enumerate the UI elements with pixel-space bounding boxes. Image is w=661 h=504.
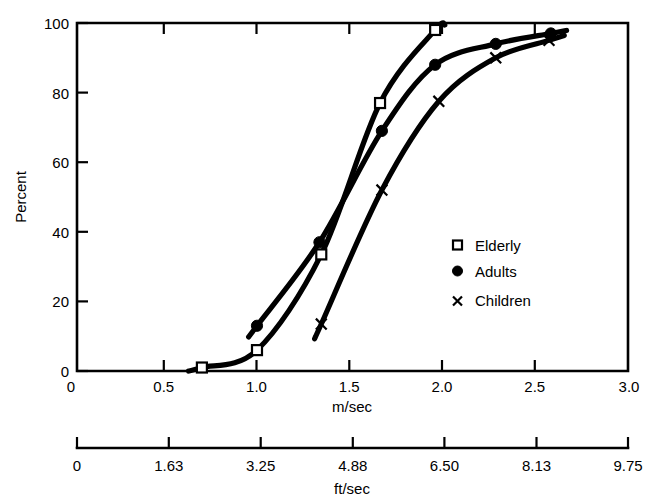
x-axis-tick-labels: 0 0.5 1.0 1.5 2.0 2.5 3.0 xyxy=(67,378,640,395)
secondary-x-tick-label: 9.75 xyxy=(613,457,642,474)
secondary-x-axis xyxy=(77,437,628,448)
x-tick-label: 1.0 xyxy=(246,378,267,395)
x-tick-label: 3.0 xyxy=(619,378,640,395)
plot-border xyxy=(77,23,628,371)
plot-frame xyxy=(77,23,628,371)
y-tick-label: 80 xyxy=(52,85,69,102)
filled-circle-marker xyxy=(430,59,441,70)
filled-circle-icon xyxy=(453,266,463,276)
secondary-x-tick-label: 0 xyxy=(73,457,81,474)
legend-label: Elderly xyxy=(475,237,521,254)
open-square-marker xyxy=(316,249,326,259)
secondary-x-tick-label: 1.63 xyxy=(154,457,183,474)
y-axis-ticks xyxy=(77,23,88,371)
secondary-x-tick-label: 4.88 xyxy=(338,457,367,474)
cross-icon xyxy=(453,297,462,306)
series-curve-adults xyxy=(249,30,567,337)
legend-entry-adults: Adults xyxy=(453,263,517,280)
filled-circle-marker xyxy=(376,125,387,136)
chart-figure: 0 20 40 60 80 100 Percent 0 0. xyxy=(0,0,661,504)
data-series-layer xyxy=(189,23,567,373)
y-tick-label: 40 xyxy=(52,224,69,241)
x-axis-title: m/sec xyxy=(332,398,373,415)
open-square-marker xyxy=(375,98,385,108)
secondary-x-axis-title: ft/sec xyxy=(334,480,370,497)
legend-label: Children xyxy=(475,292,531,309)
x-tick-label: 2.0 xyxy=(432,378,453,395)
top-axis-ticks xyxy=(164,23,535,34)
legend-label: Adults xyxy=(475,263,517,280)
x-tick-label: 2.5 xyxy=(524,378,545,395)
x-tick-label: 0 xyxy=(67,378,75,395)
y-axis-title: Percent xyxy=(12,170,29,223)
open-square-marker xyxy=(430,25,440,35)
secondary-x-tick-label: 6.50 xyxy=(430,457,459,474)
secondary-x-axis-tick-labels: 0 1.63 3.25 4.88 6.50 8.13 9.75 xyxy=(73,457,643,474)
secondary-x-tick-label: 3.25 xyxy=(246,457,275,474)
open-square-icon xyxy=(453,241,462,250)
chart-legend: Elderly Adults Children xyxy=(453,237,531,309)
filled-circle-marker xyxy=(490,38,501,49)
y-tick-label: 60 xyxy=(52,154,69,171)
open-square-marker xyxy=(252,345,262,355)
walking-speed-cumulative-distribution-chart: 0 20 40 60 80 100 Percent 0 0. xyxy=(0,0,661,504)
y-tick-label: 100 xyxy=(44,15,69,32)
series-adults xyxy=(249,28,567,337)
filled-circle-marker xyxy=(251,320,262,331)
legend-entry-children: Children xyxy=(453,292,531,309)
y-axis-tick-labels: 0 20 40 60 80 100 xyxy=(44,15,69,380)
secondary-x-tick-label: 8.13 xyxy=(522,457,551,474)
x-tick-label: 1.5 xyxy=(339,378,360,395)
y-tick-label: 20 xyxy=(52,293,69,310)
filled-circle-marker xyxy=(314,237,325,248)
open-square-marker xyxy=(197,363,207,373)
x-tick-label: 0.5 xyxy=(153,378,174,395)
legend-entry-elderly: Elderly xyxy=(453,237,521,254)
